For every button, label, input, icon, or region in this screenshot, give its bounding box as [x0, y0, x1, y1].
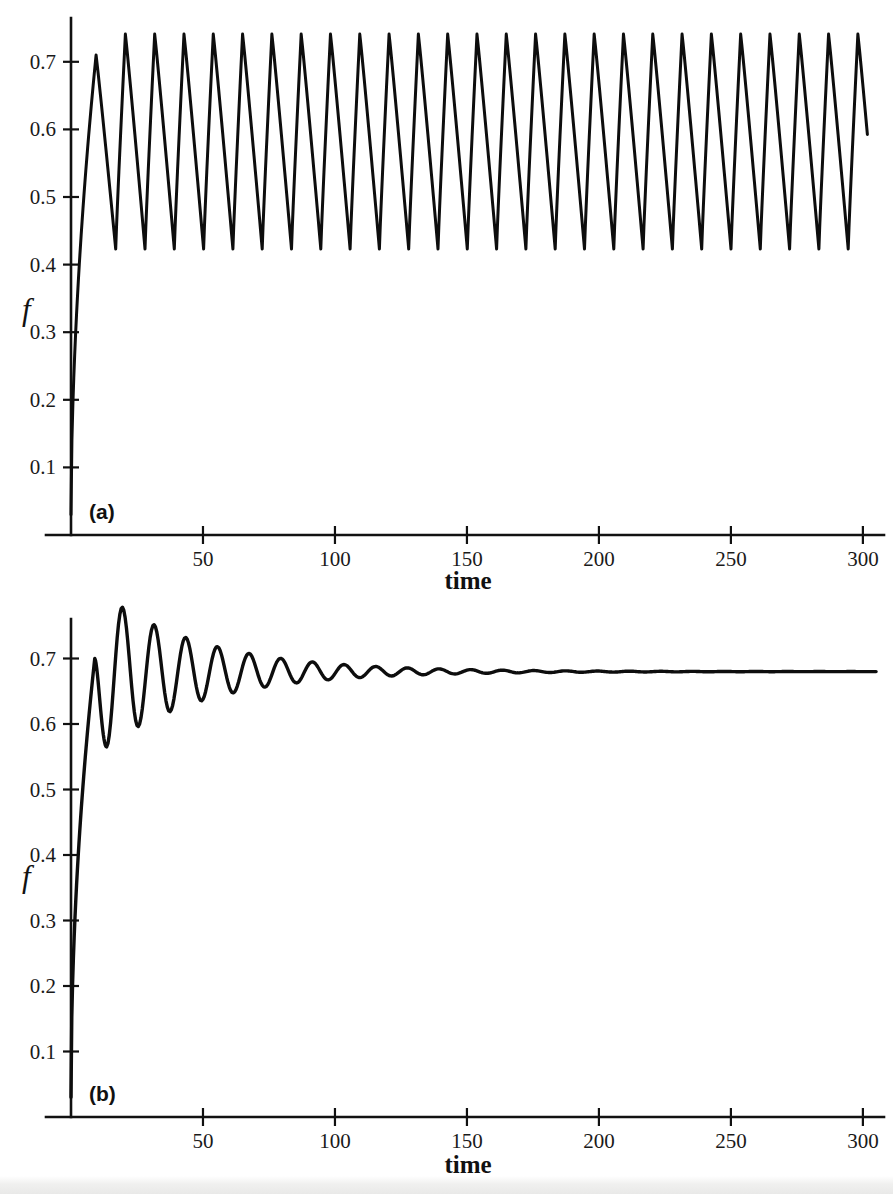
x-axis-title-a: time — [444, 567, 491, 594]
y-tick-label-b-1: 0.2 — [30, 974, 56, 998]
figure-container: 0.10.20.30.40.50.60.7 50100150200250300 … — [0, 0, 893, 1194]
y-tick-label-b-0: 0.1 — [30, 1040, 56, 1064]
y-tick-labels-a: 0.10.20.30.40.50.60.7 — [30, 50, 57, 480]
y-tick-label-a-4: 0.5 — [30, 185, 56, 209]
y-tick-label-a-5: 0.6 — [30, 117, 56, 141]
y-tick-label-a-1: 0.2 — [30, 388, 56, 412]
y-tick-label-b-5: 0.6 — [30, 712, 56, 736]
x-tick-label-a-0: 50 — [192, 547, 213, 571]
x-tick-label-b-2: 150 — [451, 1129, 483, 1153]
scan-edge-band — [0, 1176, 893, 1194]
x-tick-label-b-0: 50 — [192, 1129, 213, 1153]
y-tick-label-a-6: 0.7 — [30, 50, 56, 74]
x-tick-label-b-1: 100 — [319, 1129, 351, 1153]
y-tick-labels-b: 0.10.20.30.40.50.60.7 — [30, 647, 57, 1064]
y-tick-label-b-3: 0.4 — [30, 843, 57, 867]
x-axis-title-b: time — [444, 1151, 491, 1178]
plot-a-svg: 0.10.20.30.40.50.60.7 50100150200250300 … — [0, 0, 893, 597]
panel-label-a: (a) — [89, 500, 115, 523]
x-tick-label-b-5: 300 — [847, 1129, 879, 1153]
plot-b-svg: 0.10.20.30.40.50.60.7 50100150200250300 … — [0, 597, 893, 1194]
y-tick-label-a-2: 0.3 — [30, 320, 56, 344]
panel-b: 0.10.20.30.40.50.60.7 50100150200250300 … — [0, 597, 893, 1194]
panel-label-b: (b) — [89, 1082, 116, 1105]
y-tick-label-b-2: 0.3 — [30, 909, 56, 933]
y-tick-label-a-3: 0.4 — [30, 253, 57, 277]
x-tick-label-a-4: 250 — [715, 547, 747, 571]
x-tick-label-b-4: 250 — [715, 1129, 747, 1153]
x-tick-labels-b: 50100150200250300 — [192, 1129, 878, 1153]
panel-a: 0.10.20.30.40.50.60.7 50100150200250300 … — [0, 0, 893, 597]
data-curve-b — [71, 607, 876, 1097]
y-tick-label-a-0: 0.1 — [30, 455, 56, 479]
x-tick-label-a-1: 100 — [319, 547, 351, 571]
x-tick-labels-a: 50100150200250300 — [192, 547, 878, 571]
x-tick-label-a-3: 200 — [583, 547, 615, 571]
x-tick-label-a-5: 300 — [847, 547, 879, 571]
x-tick-label-b-3: 200 — [583, 1129, 615, 1153]
data-curve-a — [71, 34, 867, 515]
y-tick-label-b-4: 0.5 — [30, 778, 56, 802]
y-tick-label-b-6: 0.7 — [30, 647, 56, 671]
